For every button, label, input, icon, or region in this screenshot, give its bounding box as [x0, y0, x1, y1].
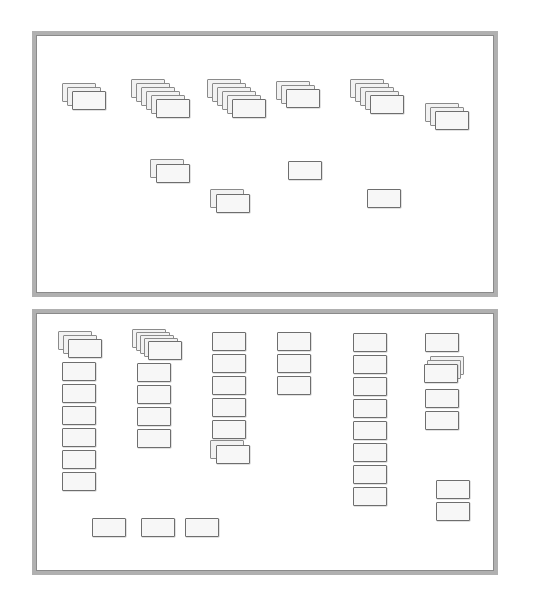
diagram-page: [0, 0, 533, 615]
card[interactable]: [424, 364, 458, 383]
card-column[interactable]: [62, 362, 96, 494]
card[interactable]: [370, 95, 404, 114]
card[interactable]: [286, 89, 320, 108]
card-column[interactable]: [137, 363, 171, 451]
card[interactable]: [68, 339, 102, 358]
card[interactable]: [62, 472, 96, 491]
card[interactable]: [212, 354, 246, 373]
card[interactable]: [232, 99, 266, 118]
card[interactable]: [425, 333, 459, 352]
card-column[interactable]: [212, 332, 246, 442]
card-column[interactable]: [277, 332, 311, 398]
card[interactable]: [212, 420, 246, 439]
card[interactable]: [353, 487, 387, 506]
card[interactable]: [367, 189, 401, 208]
card-column[interactable]: [436, 480, 470, 524]
card[interactable]: [436, 480, 470, 499]
upper-panel-surface[interactable]: [36, 35, 494, 293]
card[interactable]: [185, 518, 219, 537]
card[interactable]: [62, 362, 96, 381]
card[interactable]: [137, 429, 171, 448]
card[interactable]: [216, 194, 250, 213]
card[interactable]: [277, 332, 311, 351]
card-column[interactable]: [425, 389, 459, 433]
card[interactable]: [425, 411, 459, 430]
card[interactable]: [288, 161, 322, 180]
card[interactable]: [62, 428, 96, 447]
card[interactable]: [277, 376, 311, 395]
card[interactable]: [353, 399, 387, 418]
card[interactable]: [436, 502, 470, 521]
card[interactable]: [277, 354, 311, 373]
card[interactable]: [216, 445, 250, 464]
card[interactable]: [137, 385, 171, 404]
card[interactable]: [353, 355, 387, 374]
card[interactable]: [353, 377, 387, 396]
card[interactable]: [212, 398, 246, 417]
card[interactable]: [353, 443, 387, 462]
card[interactable]: [92, 518, 126, 537]
card-column[interactable]: [353, 333, 387, 509]
card[interactable]: [148, 341, 182, 360]
card[interactable]: [62, 450, 96, 469]
card[interactable]: [72, 91, 106, 110]
card[interactable]: [156, 99, 190, 118]
card[interactable]: [353, 333, 387, 352]
card[interactable]: [137, 407, 171, 426]
card[interactable]: [62, 384, 96, 403]
card[interactable]: [156, 164, 190, 183]
card[interactable]: [137, 363, 171, 382]
card[interactable]: [141, 518, 175, 537]
card[interactable]: [353, 465, 387, 484]
card[interactable]: [212, 332, 246, 351]
card[interactable]: [62, 406, 96, 425]
card[interactable]: [435, 111, 469, 130]
card[interactable]: [353, 421, 387, 440]
card[interactable]: [425, 389, 459, 408]
card[interactable]: [212, 376, 246, 395]
